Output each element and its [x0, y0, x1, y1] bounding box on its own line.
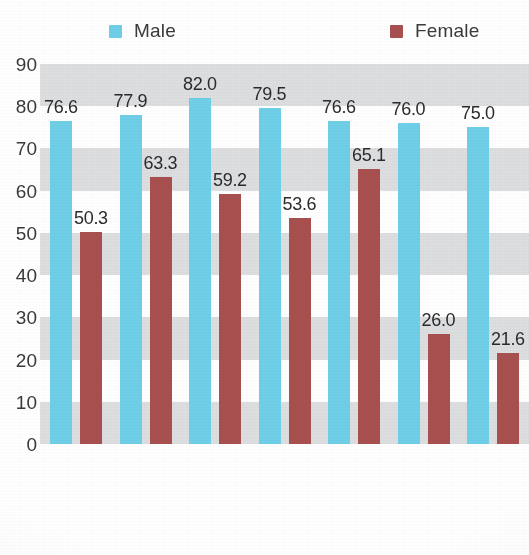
bar-female: [150, 177, 172, 444]
y-axis-tick-90: 90: [3, 55, 37, 74]
bar-value-label: 82.0: [183, 75, 217, 93]
chart-legend: Male Female: [0, 14, 529, 48]
bar-value-label: 63.3: [144, 154, 178, 172]
bar-female: [428, 334, 450, 444]
bar-male: [328, 121, 350, 444]
legend-item-female: Female: [390, 20, 480, 42]
bar-value-label: 79.5: [253, 85, 287, 103]
bar-group: 75.021.6: [467, 64, 522, 444]
bar-group: 76.026.0: [398, 64, 453, 444]
y-axis-tick-10: 10: [3, 392, 37, 411]
legend-label-male: Male: [134, 20, 176, 42]
bar-value-label: 77.9: [114, 92, 148, 110]
x-axis: WorldEast AsiaSouth-East Asiaand Pacific…: [40, 448, 529, 555]
bar-value-label: 76.6: [322, 98, 356, 116]
bar-value-label: 21.6: [491, 330, 525, 348]
legend-item-male: Male: [109, 20, 176, 42]
y-axis-tick-50: 50: [3, 223, 37, 242]
bar-group: 76.650.3: [50, 64, 105, 444]
bar-group: 76.665.1: [328, 64, 383, 444]
bar-male: [467, 127, 489, 444]
y-axis-tick-0: 0: [3, 435, 37, 454]
bar-female: [80, 232, 102, 444]
bar-group: 79.553.6: [259, 64, 314, 444]
bar-value-label: 65.1: [352, 146, 386, 164]
square-swatch-icon: [109, 25, 122, 38]
bar-group: 82.059.2: [189, 64, 244, 444]
bar-female: [358, 169, 380, 444]
y-axis-tick-30: 30: [3, 308, 37, 327]
y-axis-tick-20: 20: [3, 350, 37, 369]
bar-male: [50, 121, 72, 444]
y-axis-tick-70: 70: [3, 139, 37, 158]
bar-male: [259, 108, 281, 444]
bar-value-label: 76.0: [392, 100, 426, 118]
plot-area: 76.650.377.963.382.059.279.553.676.665.1…: [40, 64, 529, 444]
y-axis-tick-40: 40: [3, 266, 37, 285]
bar-series-container: 76.650.377.963.382.059.279.553.676.665.1…: [40, 64, 529, 444]
grouped-bar-chart: 9080706050403020100 76.650.377.963.382.0…: [0, 55, 529, 555]
bar-value-label: 75.0: [461, 104, 495, 122]
bar-value-label: 53.6: [283, 195, 317, 213]
bar-female: [289, 218, 311, 444]
bar-female: [497, 353, 519, 444]
bar-male: [398, 123, 420, 444]
y-axis: 9080706050403020100: [0, 55, 37, 445]
legend-label-female: Female: [415, 20, 480, 42]
bar-female: [219, 194, 241, 444]
bar-value-label: 76.6: [44, 98, 78, 116]
bar-male: [189, 98, 211, 444]
bar-value-label: 50.3: [74, 209, 108, 227]
bar-value-label: 26.0: [422, 311, 456, 329]
square-swatch-icon: [390, 25, 403, 38]
bar-male: [120, 115, 142, 444]
bar-value-label: 59.2: [213, 171, 247, 189]
bar-group: 77.963.3: [120, 64, 175, 444]
y-axis-tick-60: 60: [3, 181, 37, 200]
y-axis-tick-80: 80: [3, 97, 37, 116]
